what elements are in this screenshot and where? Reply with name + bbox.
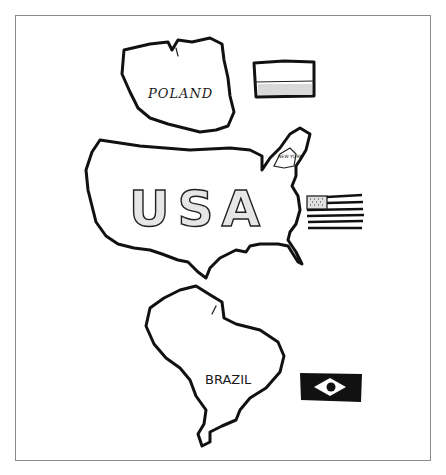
new-york-label: NEW YORK — [278, 154, 303, 159]
brazil-outline — [146, 286, 284, 446]
svg-text:USA: USA — [129, 180, 268, 238]
usa-label: USA — [129, 180, 268, 238]
usa-flag — [307, 195, 364, 230]
brazil-label: BRAZIL — [205, 372, 252, 387]
poland-flag — [254, 61, 314, 97]
brazil-flag — [300, 373, 362, 402]
map-drawing: POLAND NEW YORK USA BRAZIL — [0, 0, 446, 475]
poland-label: POLAND — [147, 86, 213, 101]
poland-outline — [122, 38, 234, 132]
